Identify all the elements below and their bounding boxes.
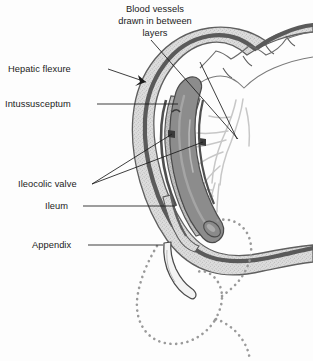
label-blood-vessels-line3: layers — [142, 28, 167, 38]
label-appendix: Appendix — [32, 240, 71, 250]
label-ileocolic-valve: Ileocolic valve — [18, 179, 77, 189]
intussusception-diagram: Blood vessels drawn in between layers He… — [0, 0, 313, 361]
label-blood-vessels-line1: Blood vessels — [126, 4, 184, 14]
label-ileum: Ileum — [45, 201, 68, 211]
label-blood-vessels-line2: drawn in between — [118, 16, 192, 26]
label-hepatic-flexure: Hepatic flexure — [8, 64, 71, 74]
label-intussusceptum: Intussusceptum — [5, 99, 71, 109]
anatomical-illustration: Blood vessels drawn in between layers He… — [0, 0, 313, 361]
